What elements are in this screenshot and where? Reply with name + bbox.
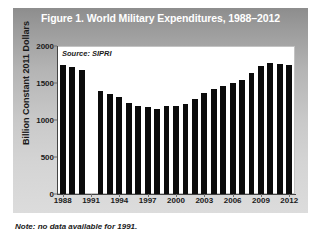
figure-note: Note: no data available for 1991. xyxy=(15,222,137,231)
x-axis-ticks: 198819911994199720002003200620092012 xyxy=(0,0,321,246)
x-tick-mark xyxy=(119,194,120,197)
x-tick-label: 2012 xyxy=(280,196,298,205)
x-tick-mark xyxy=(204,194,205,197)
x-tick-mark xyxy=(233,194,234,197)
x-tick-mark xyxy=(261,194,262,197)
x-tick-label: 1994 xyxy=(110,196,128,205)
x-tick-mark xyxy=(91,194,92,197)
x-tick-label: 1988 xyxy=(54,196,72,205)
figure-container: Figure 1. World Military Expenditures, 1… xyxy=(0,0,321,246)
x-tick-mark xyxy=(63,194,64,197)
x-tick-label: 1997 xyxy=(139,196,157,205)
x-tick-mark xyxy=(176,194,177,197)
x-tick-label: 2009 xyxy=(252,196,270,205)
x-tick-mark xyxy=(289,194,290,197)
x-tick-mark xyxy=(148,194,149,197)
x-tick-label: 2006 xyxy=(224,196,242,205)
x-tick-label: 2003 xyxy=(195,196,213,205)
x-tick-label: 1991 xyxy=(82,196,100,205)
x-tick-label: 2000 xyxy=(167,196,185,205)
